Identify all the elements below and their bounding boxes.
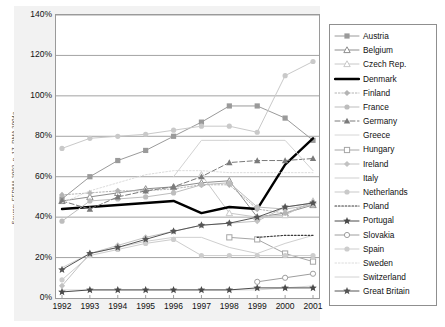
legend-item-netherlands[interactable]: Netherlands [334, 185, 433, 199]
legend: AustriaBelgiumCzech Rep.DenmarkFinlandFr… [329, 24, 437, 306]
legend-key-circle-filled-icon [334, 243, 360, 255]
y-axis: 140%120%100%80%60%40%20%0% [14, 6, 52, 307]
legend-label: Great Britain [363, 287, 410, 295]
legend-item-finland[interactable]: Finland [334, 86, 433, 100]
series-czech-rep- [198, 171, 316, 219]
y-tick-label: 100% [16, 91, 52, 100]
legend-key-circle-filled-icon [334, 101, 360, 113]
legend-label: Greece [363, 131, 390, 139]
legend-key-triangle-filled-icon [334, 115, 360, 127]
legend-label: Switzerland [363, 273, 406, 281]
legend-label: Ireland [363, 160, 388, 168]
x-axis: 1992199319941995199619971998199920002001 [55, 302, 321, 318]
legend-label: France [363, 103, 389, 111]
chart-area: 140%120%100%80%60%40%20%0% 1992199319941… [14, 6, 320, 321]
legend-item-portugal[interactable]: Portugal [334, 213, 433, 227]
legend-item-spain[interactable]: Spain [334, 242, 433, 256]
legend-key-line-icon [334, 129, 360, 141]
legend-key-line-icon [334, 172, 360, 184]
x-tick-label: 2001 [296, 302, 330, 311]
legend-item-denmark[interactable]: Denmark [334, 72, 433, 86]
legend-label: Spain [363, 245, 384, 253]
y-tick-label: 40% [16, 212, 52, 221]
legend-item-italy[interactable]: Italy [334, 171, 433, 185]
legend-item-great-britain[interactable]: Great Britain [334, 284, 433, 298]
legend-label: Czech Rep. [363, 60, 406, 68]
legend-label: Sweden [363, 259, 393, 267]
legend-label: Netherlands [363, 188, 408, 196]
legend-label: Germany [363, 117, 397, 125]
legend-key-star-filled-icon [334, 285, 360, 297]
legend-item-ireland[interactable]: Ireland [334, 157, 433, 171]
series-poland [257, 235, 313, 237]
legend-key-line-icon [334, 73, 360, 85]
legend-key-triangle-open-icon [334, 44, 360, 56]
legend-item-germany[interactable]: Germany [334, 114, 433, 128]
y-tick-label: 60% [16, 172, 52, 181]
legend-item-poland[interactable]: Poland [334, 199, 433, 213]
series-belgium [59, 178, 316, 220]
y-tick-label: 80% [16, 131, 52, 140]
series-denmark [62, 138, 313, 213]
legend-label: Belgium [363, 46, 393, 54]
legend-item-hungary[interactable]: Hungary [334, 143, 433, 157]
legend-label: Finland [363, 89, 390, 97]
legend-item-austria[interactable]: Austria [334, 29, 433, 43]
legend-item-sweden[interactable]: Sweden [334, 256, 433, 270]
legend-label: Poland [363, 202, 389, 210]
legend-key-line-icon [334, 200, 360, 212]
legend-label: Denmark [363, 75, 397, 83]
y-tick-label: 120% [16, 50, 52, 59]
legend-key-triangle-open-icon [334, 58, 360, 70]
plot-area [55, 14, 320, 299]
legend-label: Slovakia [363, 231, 394, 239]
legend-label: Italy [363, 174, 378, 182]
legend-key-circle-filled-icon [334, 186, 360, 198]
legend-key-diamond-filled-icon [334, 158, 360, 170]
chart-screenshot: Source: FEDMA 2002, p. 17, DMA 2004a 140… [0, 0, 445, 327]
legend-key-diamond-filled-icon [334, 87, 360, 99]
legend-item-france[interactable]: France [334, 100, 433, 114]
y-tick-label: 0% [16, 293, 52, 302]
series-portugal [58, 284, 317, 295]
legend-item-slovakia[interactable]: Slovakia [334, 228, 433, 242]
series-slovakia [255, 271, 316, 284]
series-ireland [59, 200, 316, 289]
series-germany [59, 155, 316, 211]
series-spain [59, 237, 315, 283]
legend-key-line-icon [334, 271, 360, 283]
legend-key-circle-open-icon [334, 229, 360, 241]
legend-label: Portugal [363, 216, 394, 224]
legend-key-square-filled-icon [334, 30, 360, 42]
legend-item-czech-rep-[interactable]: Czech Rep. [334, 57, 433, 71]
legend-item-switzerland[interactable]: Switzerland [334, 270, 433, 284]
legend-item-greece[interactable]: Greece [334, 128, 433, 142]
legend-key-square-open-icon [334, 144, 360, 156]
legend-label: Austria [363, 32, 389, 40]
y-tick-label: 140% [16, 10, 52, 19]
legend-key-star-filled-icon [334, 215, 360, 227]
legend-label: Hungary [363, 145, 394, 153]
series-netherlands [59, 59, 315, 151]
legend-key-line-icon [334, 257, 360, 269]
y-tick-label: 20% [16, 253, 52, 262]
legend-item-belgium[interactable]: Belgium [334, 43, 433, 57]
plot-svg [56, 15, 319, 298]
